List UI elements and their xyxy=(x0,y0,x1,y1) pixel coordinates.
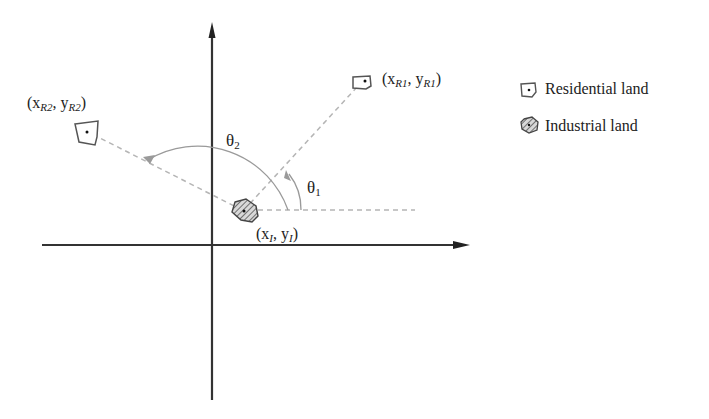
diagram-canvas xyxy=(0,0,709,419)
legend-industrial-label: Industrial land xyxy=(545,117,638,135)
x-subscript: R2 xyxy=(40,101,52,113)
paren-close: ) xyxy=(81,94,86,111)
industrial-land-icon xyxy=(232,199,258,222)
theta2-label: θ2 xyxy=(226,131,240,151)
theta1-label: θ1 xyxy=(307,178,321,198)
theta-subscript: 1 xyxy=(315,186,321,198)
label-residential-1: (xR1, yR1) xyxy=(382,70,441,92)
y-symbol: y xyxy=(416,70,424,87)
paren-close: ) xyxy=(293,225,298,242)
line-to-r1 xyxy=(244,86,358,210)
comma: , xyxy=(53,94,61,111)
x-subscript: R1 xyxy=(395,77,407,89)
y-subscript: R1 xyxy=(424,77,436,89)
legend-residential-label: Residential land xyxy=(545,80,649,98)
y-symbol: y xyxy=(281,225,289,242)
residential-land-icon-r2 xyxy=(75,121,98,145)
paren-close: ) xyxy=(436,70,441,87)
theta-symbol: θ xyxy=(307,178,315,197)
label-industrial: (xI, yI) xyxy=(256,225,298,247)
residential-land-icon-r1 xyxy=(353,76,371,89)
dashed-lines xyxy=(98,86,415,210)
theta-subscript: 2 xyxy=(234,139,240,151)
comma: , xyxy=(273,225,281,242)
legend-industrial-icon xyxy=(521,117,538,133)
theta1-arc xyxy=(284,170,301,210)
y-symbol: y xyxy=(61,94,69,111)
theta-symbol: θ xyxy=(226,131,234,150)
comma: , xyxy=(408,70,416,87)
y-subscript: R2 xyxy=(69,101,81,113)
label-residential-2: (xR2, yR2) xyxy=(27,94,86,116)
y-axis xyxy=(209,22,216,400)
line-to-r2 xyxy=(98,137,242,210)
theta2-arc xyxy=(143,146,288,210)
legend-residential-icon xyxy=(521,83,536,97)
